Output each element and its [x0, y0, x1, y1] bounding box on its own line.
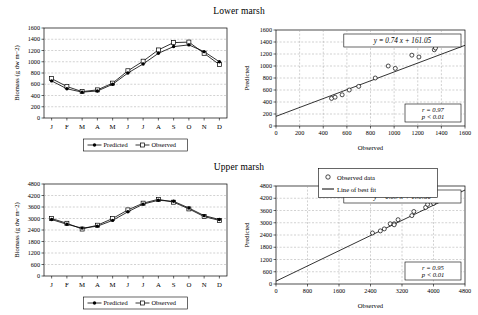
- y-axis-title: Biomass (g dw m−2): [13, 45, 21, 101]
- x-tick-label: D: [217, 123, 222, 130]
- x-tick-label: N: [202, 281, 207, 288]
- upper-timeseries-panel: 06001200180024003000360042004800JFMAMJJA…: [10, 178, 235, 310]
- y-tick-label: 4800: [28, 180, 40, 187]
- scatter-point: [347, 88, 351, 92]
- y-tick-label: 0: [37, 272, 40, 279]
- y-tick-label: 4200: [28, 192, 40, 199]
- predicted-marker: [141, 62, 144, 65]
- stat-p-label: p < 0.01: [421, 113, 445, 120]
- x-axis-title: Observed: [358, 144, 384, 151]
- scatter-point: [410, 53, 414, 57]
- x-tick-label: J: [127, 123, 130, 130]
- x-tick-label: J: [50, 281, 53, 288]
- scatter-point: [412, 210, 416, 214]
- x-tick-label: 3200: [396, 287, 408, 294]
- y-tick-label: 2400: [260, 231, 272, 238]
- y-tick-label: 1400: [28, 35, 40, 42]
- legend-observed-marker: [141, 143, 145, 147]
- x-tick-label: O: [186, 281, 191, 288]
- predicted-marker: [96, 224, 99, 227]
- scatter-point: [370, 231, 374, 235]
- predicted-marker: [50, 79, 53, 82]
- stat-r-label: r = 0.97: [422, 106, 445, 113]
- x-tick-label: 800: [366, 129, 375, 136]
- scatter-point: [357, 84, 361, 88]
- x-tick-label: 400: [319, 129, 328, 136]
- x-tick-label: M: [110, 123, 116, 130]
- scatter-point: [393, 66, 397, 70]
- y-tick-label: 600: [263, 86, 272, 93]
- predicted-marker: [50, 218, 53, 221]
- y-tick-label: 600: [31, 261, 40, 268]
- x-tick-label: S: [172, 123, 176, 130]
- x-tick-label: 1000: [388, 129, 400, 136]
- scatter-point: [386, 64, 390, 68]
- observed-marker: [172, 41, 176, 45]
- x-tick-label: 1600: [333, 287, 345, 294]
- predicted-marker: [202, 214, 205, 217]
- scatter-point: [340, 93, 344, 97]
- y-tick-label: 1000: [28, 58, 40, 65]
- x-tick-label: A: [156, 281, 161, 288]
- y-tick-label: 400: [31, 92, 40, 99]
- scatter-point: [373, 76, 377, 80]
- x-tick-label: A: [95, 281, 100, 288]
- observed-marker: [156, 48, 160, 52]
- y-tick-label: 800: [263, 74, 272, 81]
- x-tick-label: N: [202, 123, 207, 130]
- predicted-marker: [187, 43, 190, 46]
- y-axis-title: Predicted: [243, 222, 250, 248]
- y-tick-label: 3000: [28, 215, 40, 222]
- x-tick-label: 200: [295, 129, 304, 136]
- predicted-marker: [126, 71, 129, 74]
- y-tick-label: 1800: [260, 243, 272, 250]
- legend-observed-label: Observed: [152, 141, 177, 148]
- x-tick-label: 4000: [427, 287, 439, 294]
- lower-marsh-title: Lower marsh: [0, 6, 478, 16]
- y-tick-label: 0: [269, 122, 272, 129]
- predicted-marker: [126, 210, 129, 213]
- y-tick-label: 1400: [260, 38, 272, 45]
- equation-label: y = 0.74 x + 161.05: [373, 37, 432, 45]
- y-tick-label: 1200: [28, 47, 40, 54]
- scatter-point: [378, 229, 382, 233]
- predicted-marker: [65, 87, 68, 90]
- x-tick-label: 4800: [459, 287, 471, 294]
- legend-predicted-label: Predicted: [104, 141, 129, 148]
- predicted-marker: [157, 199, 160, 202]
- scatter-point: [388, 222, 392, 226]
- x-tick-label: 800: [303, 287, 312, 294]
- stat-p-label: p < 0.01: [421, 271, 445, 278]
- x-tick-label: M: [79, 281, 85, 288]
- predicted-marker: [172, 200, 175, 203]
- x-tick-label: 1600: [459, 129, 471, 136]
- x-tick-label: F: [65, 281, 69, 288]
- y-tick-label: 4800: [260, 182, 272, 189]
- y-tick-label: 0: [269, 280, 272, 287]
- x-tick-label: J: [127, 281, 130, 288]
- scatter-point: [392, 223, 396, 227]
- y-tick-label: 3000: [260, 219, 272, 226]
- predicted-marker: [202, 50, 205, 53]
- x-tick-label: 0: [274, 129, 277, 136]
- y-tick-label: 2400: [28, 226, 40, 233]
- legend-observed-marker: [141, 301, 145, 305]
- scatter-point: [417, 55, 421, 59]
- legend-predicted-label: Predicted: [104, 299, 129, 306]
- x-tick-label: 600: [342, 129, 351, 136]
- y-tick-label: 1200: [28, 249, 40, 256]
- y-tick-label: 3600: [28, 203, 40, 210]
- x-axis-title: Observed: [358, 302, 384, 309]
- y-tick-label: 600: [31, 80, 40, 87]
- y-tick-label: 800: [31, 69, 40, 76]
- predicted-marker: [187, 206, 190, 209]
- x-tick-label: M: [110, 281, 116, 288]
- y-tick-label: 4200: [260, 194, 272, 201]
- y-tick-label: 1200: [260, 256, 272, 263]
- scatter-point: [333, 95, 337, 99]
- y-tick-label: 200: [263, 110, 272, 117]
- y-axis-title: Biomass (g dw m−2): [13, 202, 21, 258]
- x-tick-label: J: [142, 123, 145, 130]
- scatter-point: [396, 218, 400, 222]
- predicted-marker: [157, 52, 160, 55]
